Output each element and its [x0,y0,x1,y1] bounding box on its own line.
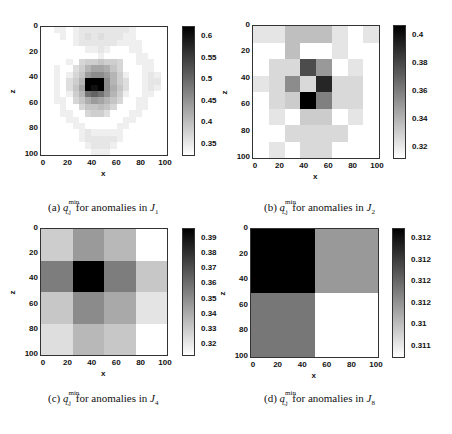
heatmap-cell [285,59,301,76]
heatmap-cell [363,43,379,60]
y-axis-label: z [218,292,227,296]
colorbar [182,228,195,356]
y-tick-label: 20 [230,250,248,258]
heatmap-cell [332,92,348,109]
x-tick-label: 60 [318,162,338,170]
y-tick-label: 60 [230,301,248,309]
heatmap-axes [40,26,168,156]
heatmap-cell [332,142,348,159]
y-axis-label: z [8,90,17,94]
colorbar [393,25,406,159]
y-axis-label: z [8,291,17,295]
figure-caption: (a) amini,j for anomalies in J1 [48,200,158,216]
heatmap-cell [316,109,332,126]
heatmap-cell [363,76,379,93]
x-tick-label: 20 [57,159,77,167]
colorbar-tick-label: 0.38 [201,249,217,257]
heatmap-cell [269,26,285,43]
heatmap-cell [41,292,73,324]
y-tick-label: 100 [232,153,250,161]
heatmap-cell [300,125,316,142]
x-tick-label: 60 [106,359,126,367]
heatmap-cell [269,92,285,109]
heatmap-cell [348,26,364,43]
heatmap-cell [363,125,379,142]
heatmap-cell [363,109,379,126]
y-tick-label: 20 [20,249,38,257]
caption-subscript: i,j [65,208,71,216]
x-axis-label: x [312,371,316,380]
x-tick-label: 40 [82,359,102,367]
x-tick-label: 60 [106,159,126,167]
x-tick-label: 0 [245,162,265,170]
x-tick-label: 40 [294,162,314,170]
heatmap-cell [161,149,167,155]
heatmap-cell [316,125,332,142]
heatmap-cell [104,324,136,356]
x-tick-label: 80 [131,359,151,367]
figure-caption: (c) amini,j for anomalies in J4 [48,391,158,407]
y-tick-label: 60 [20,99,38,107]
heatmap-cell [332,76,348,93]
heatmap-cell [363,59,379,76]
heatmap-cell [300,92,316,109]
y-tick-label: 0 [20,22,38,30]
colorbar-tick-label: 0.312 [411,256,431,264]
heatmap-cell [300,26,316,43]
x-tick-label: 100 [155,159,175,167]
heatmap-cell [269,59,285,76]
heatmap-cell [251,293,315,357]
heatmap-cell [348,92,364,109]
heatmap-cell [41,229,73,261]
heatmap-cell [332,26,348,43]
heatmap-cell [348,59,364,76]
x-tick-label: 40 [82,159,102,167]
heatmap-cell [332,59,348,76]
x-axis-label: x [101,369,105,378]
heatmap-cell [300,76,316,93]
y-tick-label: 100 [20,150,38,158]
heatmap-cell [332,43,348,60]
colorbar [392,228,405,358]
x-tick-label: 20 [268,361,288,369]
heatmap-cell [316,142,332,159]
caption-set-index: 1 [155,208,159,216]
heatmap-cell [285,142,301,159]
y-tick-label: 100 [20,350,38,358]
x-tick-label: 80 [341,361,361,369]
y-tick-label: 40 [232,74,250,82]
heatmap-cell [285,26,301,43]
caption-set-index: 4 [155,399,159,407]
heatmap-cell [316,92,332,109]
y-tick-label: 80 [232,127,250,135]
y-tick-label: 80 [20,124,38,132]
heatmap-cell [285,43,301,60]
heatmap-cell [300,142,316,159]
heatmap-cell [348,142,364,159]
figure-caption: (d) amini,j for anomalies in J8 [264,391,375,407]
caption-subscript: i,j [282,399,288,407]
heatmap-cell [253,125,269,142]
colorbar-tick-label: 0.35 [201,140,217,148]
x-tick-label: 100 [367,162,387,170]
heatmap-cell [253,26,269,43]
heatmap-cell [253,92,269,109]
y-axis-label: z [220,91,229,95]
caption-text: for anomalies in [290,392,367,404]
x-tick-label: 0 [243,361,263,369]
heatmap-cell [253,59,269,76]
heatmap-cell [285,109,301,126]
heatmap-cell [300,59,316,76]
heatmap-cell [285,76,301,93]
heatmap-cell [332,109,348,126]
heatmap-axes [40,228,168,356]
heatmap-cell [316,76,332,93]
colorbar-tick-label: 0.39 [201,234,217,242]
colorbar-tick-label: 0.33 [201,325,217,333]
heatmap-cell [251,229,315,293]
caption-set-index: 8 [371,399,375,407]
heatmap-axes [252,25,380,159]
heatmap-cell [104,261,136,293]
x-tick-label: 80 [343,162,363,170]
caption-text: for anomalies in [73,201,150,213]
